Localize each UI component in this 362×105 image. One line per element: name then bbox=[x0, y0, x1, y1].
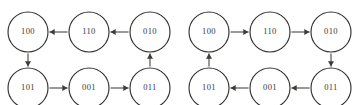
edge-110-to-010 bbox=[292, 29, 310, 35]
arrowhead-icon bbox=[147, 54, 153, 59]
node-label: 010 bbox=[324, 26, 338, 36]
arrowhead-icon bbox=[123, 85, 128, 91]
node-layer: 100110010101001011 bbox=[8, 12, 170, 105]
graph-node-100: 100 bbox=[189, 12, 229, 52]
node-layer: 100110010101001011 bbox=[189, 12, 351, 105]
arrowhead-icon bbox=[292, 85, 297, 91]
graph-left: 100110010101001011 bbox=[8, 12, 170, 105]
graph-node-010: 010 bbox=[311, 12, 351, 52]
edge-100-to-101 bbox=[25, 54, 31, 67]
node-label: 110 bbox=[82, 26, 95, 36]
node-label: 100 bbox=[21, 26, 35, 36]
edge-011-to-001 bbox=[292, 85, 310, 91]
graph-canvas: 100110010101001011100110010101001011 bbox=[0, 0, 362, 105]
edge-001-to-101 bbox=[231, 85, 249, 91]
arrowhead-icon bbox=[231, 85, 236, 91]
node-label: 110 bbox=[263, 26, 276, 36]
graph-right: 100110010101001011 bbox=[189, 12, 351, 105]
arrowhead-icon bbox=[50, 29, 55, 35]
graph-node-101: 101 bbox=[8, 68, 48, 105]
edge-010-to-110 bbox=[111, 29, 129, 35]
arrowhead-icon bbox=[328, 61, 334, 66]
graph-node-110: 110 bbox=[250, 12, 290, 52]
node-label: 011 bbox=[324, 82, 337, 92]
arrowhead-icon bbox=[62, 85, 67, 91]
arrowhead-icon bbox=[304, 29, 309, 35]
edge-100-to-110 bbox=[231, 29, 249, 35]
node-label: 101 bbox=[21, 82, 35, 92]
graph-node-010: 010 bbox=[130, 12, 170, 52]
node-label: 001 bbox=[82, 82, 96, 92]
node-label: 001 bbox=[263, 82, 277, 92]
arrowhead-icon bbox=[111, 29, 116, 35]
node-label: 010 bbox=[143, 26, 157, 36]
node-label: 011 bbox=[143, 82, 156, 92]
arrowhead-icon bbox=[25, 61, 31, 66]
graph-node-001: 001 bbox=[250, 68, 290, 105]
node-label: 100 bbox=[202, 26, 216, 36]
edge-110-to-100 bbox=[50, 29, 68, 35]
graph-node-011: 011 bbox=[130, 68, 170, 105]
edge-101-to-001 bbox=[50, 85, 68, 91]
edge-001-to-011 bbox=[111, 85, 129, 91]
arrowhead-icon bbox=[206, 54, 212, 59]
graph-node-011: 011 bbox=[311, 68, 351, 105]
directed-graph-figure: 100110010101001011100110010101001011 bbox=[0, 0, 362, 105]
edge-011-to-010 bbox=[147, 54, 153, 67]
graph-node-110: 110 bbox=[69, 12, 109, 52]
edge-101-to-100 bbox=[206, 54, 212, 67]
edge-010-to-011 bbox=[328, 54, 334, 67]
node-label: 101 bbox=[202, 82, 216, 92]
graph-node-101: 101 bbox=[189, 68, 229, 105]
arrowhead-icon bbox=[243, 29, 248, 35]
graph-node-001: 001 bbox=[69, 68, 109, 105]
graph-node-100: 100 bbox=[8, 12, 48, 52]
